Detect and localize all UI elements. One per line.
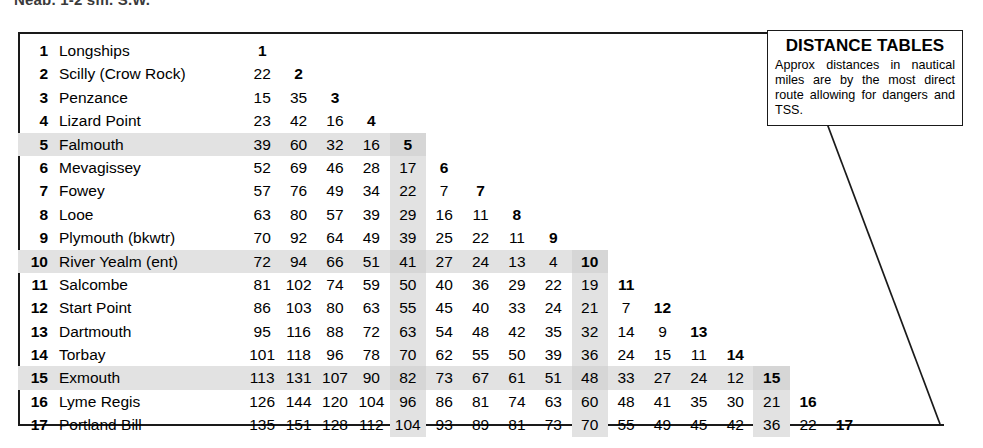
distance-cell: 128 [317,413,353,436]
distance-cell: 78 [353,343,389,366]
distance-cell: 73 [426,366,462,389]
distance-cell: 13 [499,250,535,273]
distance-cell: 63 [535,390,571,413]
distance-cell: 48 [572,366,608,389]
distance-cell: 102 [280,273,316,296]
distance-cell: 101 [244,343,280,366]
row-index-label: 1 [18,39,50,62]
distance-cell: 70 [572,413,608,436]
distance-cell: 35 [280,86,316,109]
diagonal-index-cell: 13 [681,320,717,343]
distance-cell: 34 [353,179,389,202]
distance-cell: 24 [535,296,571,319]
distance-cell: 81 [499,413,535,436]
diagonal-index-cell: 1 [244,39,280,62]
distance-cell: 16 [353,133,389,156]
distance-cell: 63 [244,203,280,226]
panel-border-top [18,32,793,34]
distance-cell: 96 [390,390,426,413]
place-name-label: River Yealm (ent) [50,250,244,273]
row-index-label: 16 [18,390,50,413]
distance-cell: 22 [462,226,498,249]
distance-cell: 41 [390,250,426,273]
distance-cell: 28 [353,156,389,179]
place-name-label: Longships [50,39,244,62]
table-row: 13Dartmouth95116887263544842353214913 [18,320,944,343]
distance-cell: 27 [644,366,680,389]
table-row: 17Portland Bill1351511281121049389817370… [18,413,944,436]
distance-cell: 151 [280,413,316,436]
distance-cell: 40 [462,296,498,319]
info-box-body-text: Approx distances in nautical miles are b… [775,58,955,118]
place-name-label: Lyme Regis [50,390,244,413]
distance-cell: 126 [244,390,280,413]
diagonal-index-cell: 17 [826,413,862,436]
distance-cell: 19 [572,273,608,296]
distance-cell: 24 [462,250,498,273]
distance-cell: 63 [353,296,389,319]
distance-cell: 46 [317,156,353,179]
distance-cell: 50 [390,273,426,296]
distance-cell: 15 [244,86,280,109]
diagonal-index-cell: 6 [426,156,462,179]
diagonal-index-cell: 2 [280,62,316,85]
distance-cell: 15 [644,343,680,366]
distance-cell: 120 [317,390,353,413]
place-name-label: Looe [50,203,244,226]
row-index-label: 12 [18,296,50,319]
distance-cell: 69 [280,156,316,179]
distance-cell: 57 [317,203,353,226]
diagonal-index-cell: 15 [753,366,789,389]
distance-cell: 51 [535,366,571,389]
distance-cell: 11 [681,343,717,366]
distance-cell: 14 [608,320,644,343]
distance-cell: 76 [280,179,316,202]
distance-cell: 45 [681,413,717,436]
distance-cell: 49 [353,226,389,249]
distance-cell: 89 [462,413,498,436]
table-row: 8Looe638057392916118 [18,203,944,226]
distance-cell: 60 [280,133,316,156]
distance-cell: 52 [244,156,280,179]
distance-cell: 49 [644,413,680,436]
distance-cell: 33 [608,366,644,389]
distance-cell: 48 [608,390,644,413]
distance-cell: 72 [244,250,280,273]
distance-cell: 63 [390,320,426,343]
place-name-label: Plymouth (bkwtr) [50,226,244,249]
distance-cell: 74 [499,390,535,413]
distance-cell: 103 [280,296,316,319]
distance-cell: 118 [280,343,316,366]
distance-cell: 4 [535,250,571,273]
distance-cell: 82 [390,366,426,389]
distance-cell: 22 [535,273,571,296]
distance-cell: 39 [535,343,571,366]
table-row: 14Torbay101118967870625550393624151114 [18,343,944,366]
diagonal-index-cell: 11 [608,273,644,296]
table-row: 10River Yealm (ent)7294665141272413410 [18,250,944,273]
distance-cell: 61 [499,366,535,389]
diagonal-index-cell: 10 [572,250,608,273]
table-row: 6Mevagissey52694628176 [18,156,944,179]
distance-cell: 16 [317,109,353,132]
diagonal-index-cell: 5 [390,133,426,156]
table-row: 7Fowey577649342277 [18,179,944,202]
diagonal-index-cell: 7 [462,179,498,202]
distance-cell: 81 [244,273,280,296]
distance-cell: 24 [608,343,644,366]
place-name-label: Start Point [50,296,244,319]
distance-cell: 21 [753,390,789,413]
place-name-label: Exmouth [50,366,244,389]
distance-cell: 88 [317,320,353,343]
distance-cell: 57 [244,179,280,202]
table-row: 5Falmouth396032165 [18,133,944,156]
distance-cell: 55 [390,296,426,319]
table-row: 11Salcombe81102745950403629221911 [18,273,944,296]
diagonal-index-cell: 12 [644,296,680,319]
distance-cell: 70 [244,226,280,249]
distance-cell: 96 [317,343,353,366]
row-index-label: 10 [18,250,50,273]
row-index-label: 2 [18,62,50,85]
distance-cell: 33 [499,296,535,319]
distance-cell: 16 [426,203,462,226]
